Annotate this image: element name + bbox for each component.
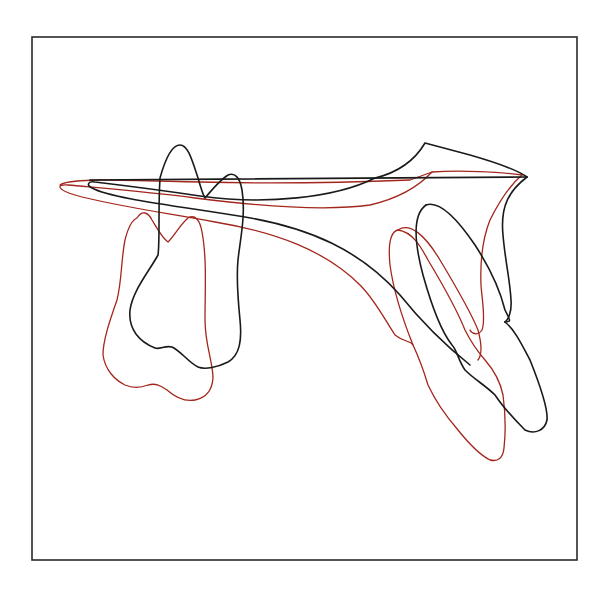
black-palatal-plane (90, 177, 527, 180)
black-tracing-group (88, 143, 547, 432)
black-incisor (416, 205, 547, 432)
black-maxilla-body (88, 143, 527, 365)
cephalometric-superimposition-diagram (0, 0, 608, 589)
black-maxilla-posterior (502, 177, 527, 322)
red-maxilla-body (470, 175, 522, 334)
black-incisor-root (426, 204, 510, 322)
figure-frame (32, 37, 577, 560)
red-maxilla-lower-contour (60, 172, 432, 345)
red-molar (103, 213, 213, 401)
